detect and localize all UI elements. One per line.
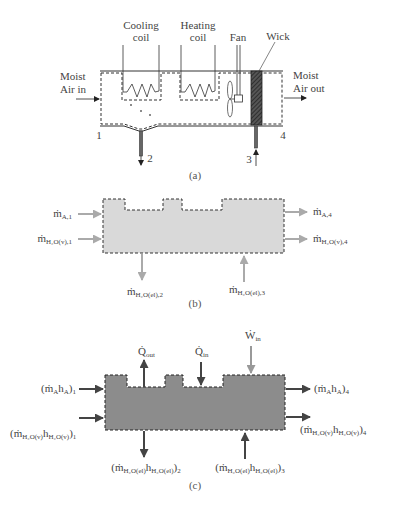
label-out-air-4: ṁA,4 <box>313 205 332 219</box>
coil-zigzag-icon <box>123 84 159 97</box>
label-out-liquid-2: ṁH₂O(el),2 <box>127 285 164 299</box>
condensate-drops-icon <box>130 104 151 116</box>
caption-a: (a) <box>189 169 202 182</box>
condensate-drain <box>140 131 143 165</box>
caption-b: (b) <box>189 297 202 310</box>
label-in-vapor-energy-1: (ṁH₂O(v)hH₂O(v))1 <box>10 427 77 441</box>
label-w-in: Ẇin <box>245 329 261 343</box>
label-q-in: Q̇in <box>195 345 209 359</box>
state-label-4: 4 <box>280 129 286 141</box>
label-out-vapor-4: ṁH₂O(v),4 <box>313 232 348 246</box>
label-in-air-energy-1: (ṁAhA)1 <box>41 382 77 396</box>
diagram-canvas: Cooling coil Heating coil Fan <box>0 0 394 510</box>
label-in-air-1: ṁA,1 <box>53 207 72 221</box>
fan-label: Fan <box>230 31 247 43</box>
fan-icon: Fan <box>228 31 247 117</box>
label-in-liquid-3: ṁH₂O(el),3 <box>229 283 266 297</box>
diagram-c-energy-balance: Q̇out Q̇in Ẇin (ṁAhA)1 (ṁH₂O(v)hH₂O(v))1… <box>10 329 367 492</box>
label-out-air-energy-4: (ṁAhA)4 <box>314 382 350 396</box>
water-supply <box>255 126 258 166</box>
wick-icon: Wick <box>251 30 290 125</box>
outlet-label-line2: Air out <box>293 82 324 94</box>
cooling-coil: Cooling coil <box>123 19 159 97</box>
wick-label: Wick <box>266 30 290 42</box>
label-in-liquid-energy-3: (ṁH₂O(el)hH₂O(el))3 <box>215 461 285 475</box>
diagram-a-dehumidifier-schematic: Cooling coil Heating coil Fan <box>60 19 324 182</box>
inlet-label-line1: Moist <box>60 70 86 82</box>
cooling-coil-label-line2: coil <box>133 31 150 43</box>
label-out-liquid-energy-2: (ṁH₂O(el)hH₂O(el))2 <box>111 461 181 475</box>
label-q-out: Q̇out <box>138 345 155 359</box>
control-volume-c <box>105 375 285 430</box>
caption-c: (c) <box>189 479 202 492</box>
label-in-vapor-1: ṁH₂O(v),1 <box>37 232 72 246</box>
cooling-coil-label-line1: Cooling <box>123 19 159 31</box>
coil-zigzag-icon <box>181 84 215 97</box>
heating-coil: Heating coil <box>181 19 216 97</box>
state-label-3: 3 <box>246 153 252 165</box>
heating-coil-label-line1: Heating <box>181 19 216 31</box>
state-label-2: 2 <box>147 152 153 164</box>
state-label-1: 1 <box>96 129 102 141</box>
outlet-label-line1: Moist <box>293 69 319 81</box>
inlet-label-line2: Air in <box>60 83 86 95</box>
control-volume-b <box>103 199 284 253</box>
diagram-b-mass-balance: ṁA,1 ṁH₂O(v),1 ṁA,4 ṁH₂O(v),4 ṁH₂O(el),2… <box>37 199 348 310</box>
label-out-vapor-energy-4: (ṁH₂O(v)hH₂O(v))4 <box>300 423 367 437</box>
heating-coil-label-line2: coil <box>190 31 207 43</box>
